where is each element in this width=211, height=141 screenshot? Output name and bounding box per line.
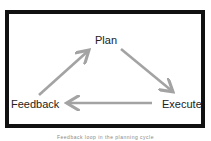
arrow-feedback-to-plan	[39, 51, 88, 95]
figure-caption: Feedback loop in the planning cycle	[0, 134, 211, 141]
cycle-arrows	[0, 0, 211, 141]
node-feedback: Feedback	[11, 98, 59, 110]
arrow-plan-to-execute	[121, 49, 172, 91]
node-execute: Execute	[162, 98, 202, 110]
node-plan: Plan	[95, 34, 117, 46]
